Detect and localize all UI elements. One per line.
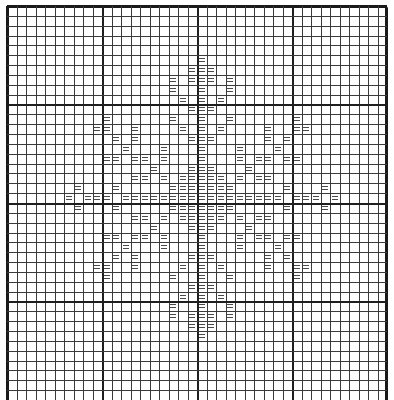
double-bar-icon [294, 235, 300, 239]
stitch-cell [283, 183, 293, 193]
stitch-cell [207, 75, 217, 85]
grid-row-line [7, 361, 387, 362]
stitch-cell [264, 233, 274, 243]
double-bar-icon [265, 157, 271, 161]
double-bar-icon [104, 157, 110, 161]
stitch-cell [226, 75, 236, 85]
double-bar-icon [246, 167, 252, 171]
stitch-cell [226, 183, 236, 193]
double-bar-icon [199, 216, 205, 220]
double-bar-icon [208, 226, 214, 230]
double-bar-icon [170, 275, 176, 279]
stitch-cell [102, 193, 112, 203]
double-bar-icon [104, 117, 110, 121]
stitch-cell [302, 124, 312, 134]
stitch-cell [226, 193, 236, 203]
double-bar-icon [294, 117, 300, 121]
double-bar-icon [142, 176, 148, 180]
double-bar-icon [218, 127, 224, 131]
double-bar-icon [265, 235, 271, 239]
stitch-cell [178, 124, 188, 134]
double-bar-icon [227, 206, 233, 210]
double-bar-icon [151, 167, 157, 171]
double-bar-icon [284, 235, 290, 239]
double-bar-icon [132, 137, 138, 141]
double-bar-icon [132, 255, 138, 259]
double-bar-icon [294, 157, 300, 161]
double-bar-icon [180, 176, 186, 180]
stitch-cell [197, 262, 207, 272]
stitch-cell [197, 311, 207, 321]
stitch-cell [226, 311, 236, 321]
double-bar-icon [218, 295, 224, 299]
stitch-cell [112, 233, 122, 243]
double-bar-icon [123, 245, 129, 249]
stitch-cell [226, 114, 236, 124]
stitch-cell [216, 292, 226, 302]
double-bar-icon [284, 137, 290, 141]
stitch-cell [188, 203, 198, 213]
stitch-cell [131, 134, 141, 144]
stitch-cell [264, 193, 274, 203]
stitch-cell [197, 203, 207, 213]
double-bar-icon [189, 314, 195, 318]
stitch-cell [178, 173, 188, 183]
stitch-cell [188, 105, 198, 115]
double-bar-icon [199, 117, 205, 121]
stitch-cell [245, 223, 255, 233]
stitch-cell [140, 173, 150, 183]
double-bar-icon [208, 324, 214, 328]
double-bar-icon [199, 235, 205, 239]
double-bar-icon [208, 216, 214, 220]
grid-row-line [7, 380, 387, 381]
double-bar-icon [113, 235, 119, 239]
stitch-cell [197, 233, 207, 243]
double-bar-icon [313, 196, 319, 200]
stitch-cell [197, 55, 207, 65]
double-bar-icon [170, 186, 176, 190]
double-bar-icon [199, 137, 205, 141]
stitch-cell [264, 262, 274, 272]
stitch-cell [169, 114, 179, 124]
double-bar-icon [104, 275, 110, 279]
double-bar-icon [237, 147, 243, 151]
stitch-cell [207, 203, 217, 213]
stitch-cell [197, 321, 207, 331]
stitch-cell [93, 193, 103, 203]
stitch-cell [102, 233, 112, 243]
stitch-cell [150, 193, 160, 203]
double-bar-icon [180, 265, 186, 269]
double-bar-icon [227, 275, 233, 279]
stitch-cell [273, 242, 283, 252]
double-bar-icon [66, 196, 72, 200]
double-bar-icon [208, 68, 214, 72]
double-bar-icon [227, 314, 233, 318]
double-bar-icon [180, 127, 186, 131]
double-bar-icon [199, 245, 205, 249]
stitch-cell [102, 124, 112, 134]
stitch-cell [64, 193, 74, 203]
stitch-cell [169, 85, 179, 95]
stitch-cell [254, 193, 264, 203]
stitch-cell [216, 173, 226, 183]
double-bar-icon [142, 157, 148, 161]
stitch-cell [178, 292, 188, 302]
double-bar-icon [218, 176, 224, 180]
double-bar-icon [199, 255, 205, 259]
double-bar-icon [151, 226, 157, 230]
double-bar-icon [246, 196, 252, 200]
double-bar-icon [161, 196, 167, 200]
stitch-cell [235, 233, 245, 243]
stitch-cell [254, 173, 264, 183]
stitch-cell [207, 164, 217, 174]
stitch-cell [188, 75, 198, 85]
stitch-cell [273, 144, 283, 154]
grid-row-line [7, 341, 387, 342]
stitch-cell [188, 282, 198, 292]
stitch-cell [74, 183, 84, 193]
double-bar-icon [199, 58, 205, 62]
double-bar-icon [104, 235, 110, 239]
stitch-cell [159, 144, 169, 154]
stitch-cell [254, 154, 264, 164]
double-bar-icon [208, 186, 214, 190]
